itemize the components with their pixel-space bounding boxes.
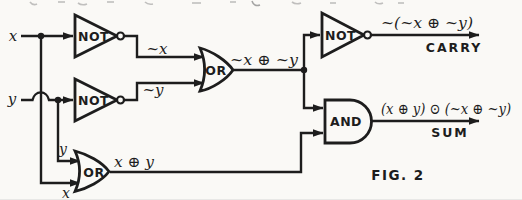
or-gate-2-label: OR: [83, 165, 104, 180]
not-gate-2-label: NOT: [78, 93, 109, 108]
not-gate-3-inverter-bubble: [364, 32, 371, 39]
figure-caption: FIG. 2: [371, 167, 425, 183]
input-y-label: y: [7, 90, 17, 108]
wire-not2-to-or1: [124, 83, 204, 100]
not-gate-1-inverter-bubble: [117, 33, 124, 40]
sum-output-label: SUM: [431, 125, 469, 140]
junction-dot-x: [38, 33, 44, 39]
or2-input-x-label: x: [62, 185, 70, 200]
not-gate-2-inverter-bubble: [117, 97, 124, 104]
signal-or2-out-label: x ⊕ y: [114, 153, 155, 171]
not-gate-1-label: NOT: [78, 29, 109, 44]
and-gate-label: AND: [330, 114, 362, 129]
junction-dot-or1-out: [301, 67, 307, 73]
wire-or1-to-not3: [304, 35, 320, 70]
sum-expression-label: (x ⊕ y) ⊙ (~x ⊕ ~y): [381, 100, 511, 118]
junction-dot-y: [55, 97, 61, 103]
signal-or1-out-label: ~x ⊕ ~y: [230, 51, 299, 69]
input-x-label: x: [9, 27, 18, 45]
circuit-diagram: x y NOT NOT NOT OR OR AND ~x ~y ~x ⊕ ~y …: [0, 0, 522, 199]
wire-y-to-not2-with-crossover-hop: [21, 92, 73, 100]
or-gate-1-label: OR: [205, 63, 226, 78]
scanned-figure-page: x y NOT NOT NOT OR OR AND ~x ~y ~x ⊕ ~y …: [0, 0, 522, 199]
not-gate-3-label: NOT: [325, 28, 356, 43]
wire-or1-to-and: [304, 70, 323, 108]
carry-output-label: CARRY: [426, 40, 482, 55]
carry-expression-label: ~(~x ⊕ ~y): [381, 14, 473, 32]
signal-not-x-label: ~x: [146, 40, 168, 58]
scan-artifact-top-text: [30, 1, 404, 6]
or2-input-y-label: y: [58, 141, 68, 157]
signal-not-y-label: ~y: [142, 81, 164, 99]
